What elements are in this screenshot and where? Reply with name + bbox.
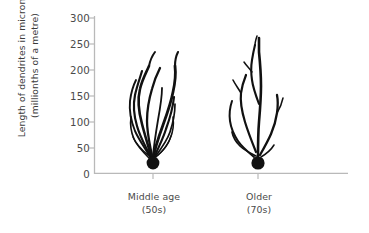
neuron-older [230,36,283,158]
soma-dot-older [251,156,264,169]
axis-lines [94,16,348,174]
x-tick-label-older-line1: Older [246,191,272,202]
dendrite-length-figure: Length of dendrites in microns (milliont… [0,0,369,233]
soma-dot-middle-age [147,157,160,170]
x-tick-label-older-line2: (70s) [218,203,300,216]
x-tick-label-middle-age-line2: (50s) [113,203,195,216]
x-tick-label-middle-age: Middle age (50s) [113,190,195,216]
x-tick-label-middle-age-line1: Middle age [128,191,180,202]
neuron-middle-age [130,52,178,160]
x-tick-label-older: Older (70s) [218,190,300,216]
